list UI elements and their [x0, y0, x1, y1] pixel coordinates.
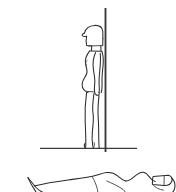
drawing-canvas: Standing figure in profile beside vertic… [0, 0, 176, 192]
page-background [0, 0, 176, 192]
line-drawing-illustration [0, 0, 176, 192]
